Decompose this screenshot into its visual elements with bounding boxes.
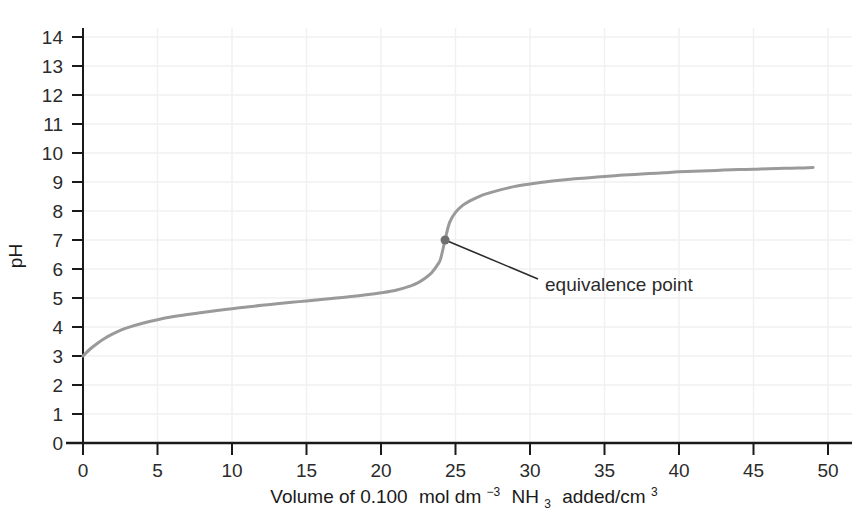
x-tick-label-0: 0 xyxy=(78,460,89,481)
x-tick-label-20: 20 xyxy=(370,460,391,481)
x-axis-title-superscript-1: −3 xyxy=(487,485,501,499)
x-axis-title-subscript-1: 3 xyxy=(544,497,551,511)
y-tick-label-8: 8 xyxy=(52,201,63,222)
x-tick-label-10: 10 xyxy=(221,460,242,481)
y-tick-label-6: 6 xyxy=(52,259,63,280)
x-tick-label-50: 50 xyxy=(817,460,838,481)
x-axis-title-part-4: added/cm xyxy=(562,486,645,507)
y-tick-label-11: 11 xyxy=(43,114,63,135)
x-axis-title-part-3: NH xyxy=(512,486,539,507)
equivalence-point-label: equivalence point xyxy=(545,274,694,295)
x-tick-label-30: 30 xyxy=(519,460,540,481)
y-axis-title: pH xyxy=(5,244,26,268)
x-tick-label-40: 40 xyxy=(668,460,689,481)
y-tick-label-10: 10 xyxy=(42,143,63,164)
x-tick-label-25: 25 xyxy=(445,460,466,481)
y-tick-label-9: 9 xyxy=(52,172,63,193)
y-tick-label-7: 7 xyxy=(52,230,63,251)
x-axis-title-superscript-2: 3 xyxy=(651,485,658,499)
y-tick-label-4: 4 xyxy=(52,317,63,338)
x-tick-label-15: 15 xyxy=(296,460,317,481)
y-tick-label-13: 13 xyxy=(42,56,63,77)
x-tick-label-35: 35 xyxy=(594,460,615,481)
y-tick-label-14: 14 xyxy=(42,27,64,48)
y-tick-label-2: 2 xyxy=(52,375,63,396)
y-tick-label-3: 3 xyxy=(52,346,63,367)
x-axis-title-part-1: Volume of 0.100 xyxy=(270,486,407,507)
chart-svg: 01234567891011121314 0510152025303540455… xyxy=(0,0,866,522)
y-tick-label-5: 5 xyxy=(52,288,63,309)
equivalence-point-marker xyxy=(441,236,450,245)
ph-titration-chart: 01234567891011121314 0510152025303540455… xyxy=(0,0,866,522)
y-tick-label-1: 1 xyxy=(52,404,63,425)
y-tick-label-0: 0 xyxy=(52,433,63,454)
x-tick-label-45: 45 xyxy=(743,460,764,481)
x-tick-label-5: 5 xyxy=(152,460,163,481)
y-tick-label-12: 12 xyxy=(42,85,63,106)
x-axis-title-part-2: mol dm xyxy=(419,486,481,507)
